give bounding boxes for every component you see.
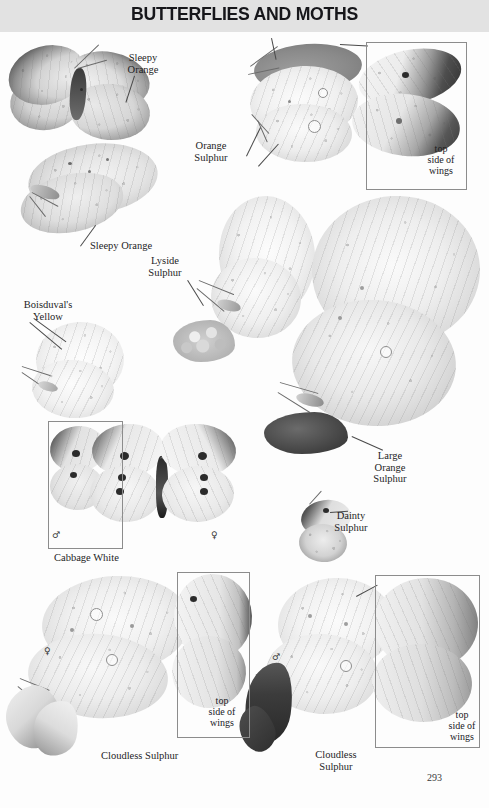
species-label-boisduvals-yellow: Boisduval's Yellow <box>12 299 84 322</box>
specimen-orange-sulphur-underside <box>232 44 362 169</box>
flower-perch <box>264 412 348 454</box>
field-guide-page: BUTTERFLIES AND MOTHS <box>0 0 489 808</box>
specimen-boisduvals-yellow <box>22 320 132 430</box>
species-label-large-orange-sulphur: Large Orange Sulphur <box>359 450 421 485</box>
sex-symbol-cloudless-sulphur-male: ♂ <box>272 652 280 662</box>
page-title: BUTTERFLIES AND MOTHS <box>17 3 472 25</box>
species-label-lyside-sulphur: Lyside Sulphur <box>135 255 195 278</box>
sex-symbol-cabbage-white-male: ♂ <box>52 530 60 540</box>
species-label-dainty-sulphur: Dainty Sulphur <box>322 510 380 533</box>
species-label-cabbage-white: Cabbage White <box>54 552 144 564</box>
species-label-cloudless-sulphur-left: Cloudless Sulphur <box>101 750 211 762</box>
inset-caption-top-side-wings-orange-sulphur: top side of wings <box>411 143 471 176</box>
species-label-cloudless-sulphur-right: Cloudless Sulphur <box>305 749 367 772</box>
sex-symbol-cloudless-sulphur-female: ♀ <box>44 646 51 656</box>
species-label-sleepy-orange-top: Sleepy Orange <box>113 52 173 75</box>
inset-caption-top-side-wings-cloudless-left: top side of wings <box>192 695 252 728</box>
species-label-orange-sulphur: Orange Sulphur <box>181 140 241 163</box>
page-number: 293 <box>427 772 442 783</box>
specimen-large-orange-sulphur <box>272 196 482 446</box>
sex-symbol-cabbage-white-female: ♀ <box>211 530 218 540</box>
flower-cluster <box>173 320 235 362</box>
inset-caption-top-side-wings-cloudless-right: top side of wings <box>432 709 489 742</box>
species-label-sleepy-orange-bottom: Sleepy Orange <box>90 240 180 252</box>
